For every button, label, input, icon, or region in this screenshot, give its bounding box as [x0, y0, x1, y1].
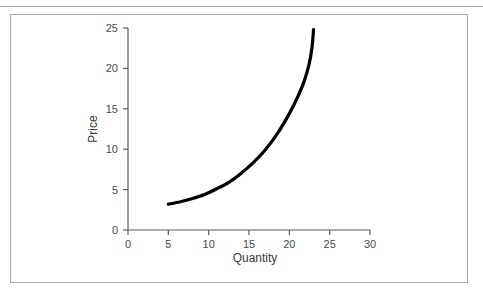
page-top-strip	[0, 0, 483, 10]
figure-frame	[10, 14, 468, 283]
horizontal-rule	[0, 6, 483, 7]
